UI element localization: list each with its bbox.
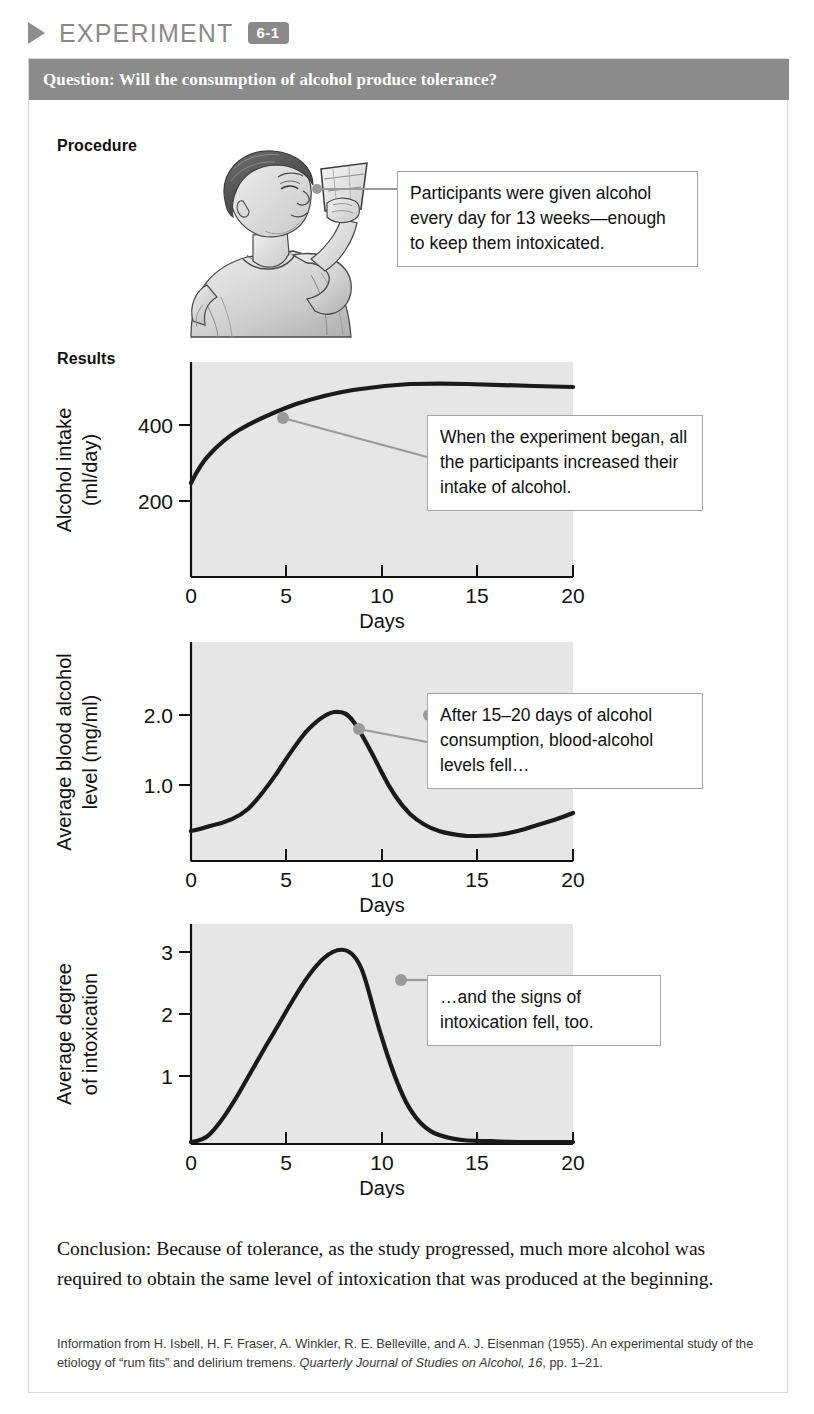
experiment-label: EXPERIMENT bbox=[59, 19, 234, 48]
x-tick-label: 0 bbox=[185, 1151, 197, 1174]
experiment-header: EXPERIMENT 6-1 bbox=[28, 16, 289, 50]
experiment-number-badge: 6-1 bbox=[248, 22, 289, 44]
experiment-panel: Question: Will the consumption of alcoho… bbox=[28, 58, 788, 1393]
play-triangle-icon bbox=[28, 22, 45, 44]
y-axis-title-line2: of intoxication bbox=[79, 973, 101, 1095]
x-axis-title: Days bbox=[359, 1177, 405, 1198]
x-tick-label: 0 bbox=[185, 584, 197, 607]
citation-part2: , pp. 1–21. bbox=[542, 1355, 602, 1370]
conclusion-text: Conclusion: Because of tolerance, as the… bbox=[57, 1234, 719, 1293]
citation-block: Information from H. Isbell, H. F. Fraser… bbox=[57, 1334, 757, 1373]
x-tick-label: 20 bbox=[561, 584, 584, 607]
blood-callout: After 15–20 days of alcohol consumption,… bbox=[427, 693, 703, 789]
y-tick-label: 1 bbox=[161, 1065, 173, 1088]
x-tick-label: 15 bbox=[465, 1151, 488, 1174]
y-tick-label: 400 bbox=[138, 414, 173, 437]
x-tick-label: 15 bbox=[465, 584, 488, 607]
x-tick-label: 5 bbox=[280, 584, 292, 607]
x-tick-label: 20 bbox=[561, 1151, 584, 1174]
procedure-callout: Participants were given alcohol every da… bbox=[397, 171, 698, 267]
y-tick-label: 3 bbox=[161, 941, 173, 964]
y-tick-label: 2 bbox=[161, 1003, 173, 1026]
y-axis-title-line1: Alcohol intake bbox=[53, 408, 75, 533]
y-tick-label: 200 bbox=[138, 490, 173, 513]
intake-callout: When the experiment began, all the parti… bbox=[427, 415, 703, 511]
intoxication-chart: 3 2 1 0 5 10 15 20 Days Average degree o… bbox=[29, 914, 789, 1198]
x-tick-label: 5 bbox=[280, 1151, 292, 1174]
x-axis-title: Days bbox=[359, 610, 405, 632]
x-tick-label: 10 bbox=[370, 584, 393, 607]
intox-callout: …and the signs of intoxication fell, too… bbox=[427, 975, 661, 1046]
citation-journal: Quarterly Journal of Studies on Alcohol,… bbox=[300, 1355, 543, 1370]
y-axis-title-line1: Average degree bbox=[53, 963, 75, 1105]
x-tick-label: 10 bbox=[370, 1151, 393, 1174]
y-axis-title-line2: (ml/day) bbox=[79, 434, 101, 506]
